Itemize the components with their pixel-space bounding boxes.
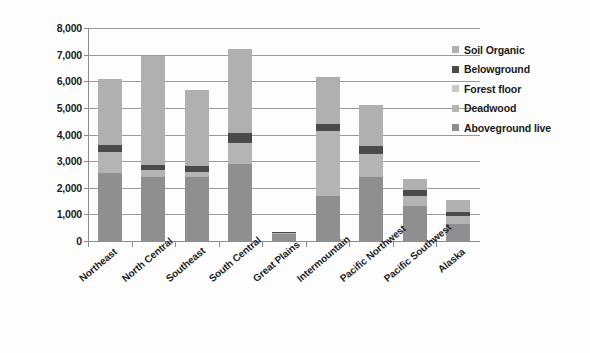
- bar-segment[interactable]: [403, 190, 427, 195]
- x-axis-label: Northeast: [77, 246, 119, 284]
- y-axis-tick-label: 8,000: [36, 23, 82, 33]
- bar-segment[interactable]: [403, 179, 427, 190]
- bar-segment[interactable]: [141, 56, 165, 165]
- bar-segment[interactable]: [98, 173, 122, 241]
- bar-group[interactable]: [359, 28, 383, 241]
- bar-group[interactable]: [141, 28, 165, 241]
- x-axis-label: Southeast: [164, 246, 206, 284]
- x-axis-label: Intermountain: [294, 246, 336, 284]
- legend-item[interactable]: Belowground: [452, 60, 588, 80]
- bar-group[interactable]: [228, 28, 252, 241]
- bar-segment[interactable]: [141, 170, 165, 177]
- x-axis-label: Pacific Northwest: [338, 246, 380, 284]
- stacked-bar-chart: Million metric tonnes 8,0007,0006,0005,0…: [0, 0, 590, 353]
- legend-item-label: Belowground: [464, 63, 530, 75]
- bar-stack: [403, 28, 427, 241]
- legend-item[interactable]: Aboveground live: [452, 118, 588, 138]
- bar-segment[interactable]: [228, 143, 252, 164]
- y-axis-tick: [84, 161, 89, 162]
- bar-stack: [185, 28, 209, 241]
- bar-segment[interactable]: [316, 77, 340, 124]
- y-axis-tick: [84, 81, 89, 82]
- bar-segment[interactable]: [403, 196, 427, 207]
- bar-segment[interactable]: [316, 196, 340, 241]
- bar-segment[interactable]: [272, 232, 296, 233]
- bar-stack: [272, 28, 296, 241]
- legend-item[interactable]: Forest floor: [452, 79, 588, 99]
- bar-segment[interactable]: [98, 145, 122, 152]
- bar-group[interactable]: [403, 28, 427, 241]
- y-axis-tick-label: 2,000: [36, 183, 82, 193]
- bar-segment[interactable]: [316, 131, 340, 196]
- bar-segment[interactable]: [446, 216, 470, 224]
- legend-swatch-icon: [452, 105, 459, 112]
- plot-area: [88, 28, 480, 241]
- bar-segment[interactable]: [185, 166, 209, 171]
- y-axis-tick-label: 4,000: [36, 130, 82, 140]
- legend-swatch-icon: [452, 66, 459, 73]
- bar-group[interactable]: [98, 28, 122, 241]
- x-axis-category-labels: NortheastNorth CentralSoutheastSouth Cen…: [88, 246, 568, 346]
- chart-legend: Soil OrganicBelowgroundForest floorDeadw…: [452, 40, 588, 138]
- bar-segment[interactable]: [185, 177, 209, 241]
- y-axis-tick-labels: 8,0007,0006,0005,0004,0003,0002,0001,000…: [34, 28, 82, 242]
- bar-segment[interactable]: [359, 105, 383, 146]
- x-axis-label: North Central: [120, 246, 162, 284]
- y-axis-tick-label: 3,000: [36, 156, 82, 166]
- x-axis-label: South Central: [207, 246, 249, 284]
- y-axis-tick-label: 6,000: [36, 76, 82, 86]
- y-axis-tick: [84, 28, 89, 29]
- legend-swatch-icon: [452, 85, 459, 92]
- y-axis-tick-label: 5,000: [36, 103, 82, 113]
- bar-segment[interactable]: [228, 49, 252, 133]
- x-axis-label: Great Plains: [251, 246, 293, 284]
- bar-segment[interactable]: [141, 177, 165, 241]
- legend-item[interactable]: Deadwood: [452, 99, 588, 119]
- bar-stack: [359, 28, 383, 241]
- bar-stack: [316, 28, 340, 241]
- bar-segment[interactable]: [446, 200, 470, 212]
- legend-item-label: Deadwood: [464, 102, 516, 114]
- bar-segment[interactable]: [272, 233, 296, 234]
- bar-segment[interactable]: [228, 164, 252, 241]
- y-axis-tick-label: 7,000: [36, 50, 82, 60]
- bar-group[interactable]: [316, 28, 340, 241]
- bar-segment[interactable]: [359, 154, 383, 177]
- legend-item-label: Soil Organic: [464, 44, 525, 56]
- y-axis-tick: [84, 55, 89, 56]
- bar-stack: [98, 28, 122, 241]
- bar-segment[interactable]: [98, 152, 122, 173]
- y-axis-tick: [84, 135, 89, 136]
- bar-segment[interactable]: [403, 206, 427, 241]
- bar-stack: [141, 28, 165, 241]
- bar-group[interactable]: [272, 28, 296, 241]
- bar-segment[interactable]: [359, 146, 383, 154]
- bar-group[interactable]: [185, 28, 209, 241]
- legend-swatch-icon: [452, 124, 459, 131]
- bar-segment[interactable]: [359, 177, 383, 241]
- x-axis-label: Pacific Southwest: [381, 246, 423, 284]
- legend-item-label: Forest floor: [464, 83, 521, 95]
- x-axis-label: Alaska: [425, 246, 467, 284]
- legend-swatch-icon: [452, 46, 459, 53]
- bar-segment[interactable]: [316, 124, 340, 131]
- y-axis-tick-label: 1,000: [36, 209, 82, 219]
- bar-segment[interactable]: [98, 79, 122, 145]
- legend-item[interactable]: Soil Organic: [452, 40, 588, 60]
- bar-stack: [228, 28, 252, 241]
- bar-segment[interactable]: [228, 133, 252, 142]
- legend-item-label: Aboveground live: [464, 122, 551, 134]
- y-axis-tick: [84, 214, 89, 215]
- bar-segment[interactable]: [141, 165, 165, 170]
- y-axis-tick: [84, 108, 89, 109]
- bar-segment[interactable]: [185, 172, 209, 177]
- bar-segment[interactable]: [185, 90, 209, 167]
- y-axis-tick-label: 0: [36, 236, 82, 246]
- y-axis-tick: [84, 188, 89, 189]
- bar-segment[interactable]: [446, 212, 470, 216]
